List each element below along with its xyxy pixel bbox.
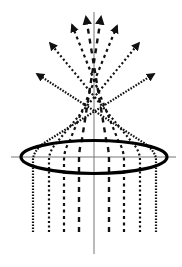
axes bbox=[11, 12, 176, 254]
diagram-canvas bbox=[0, 0, 182, 267]
light-ray-right-5 bbox=[86, 17, 109, 232]
